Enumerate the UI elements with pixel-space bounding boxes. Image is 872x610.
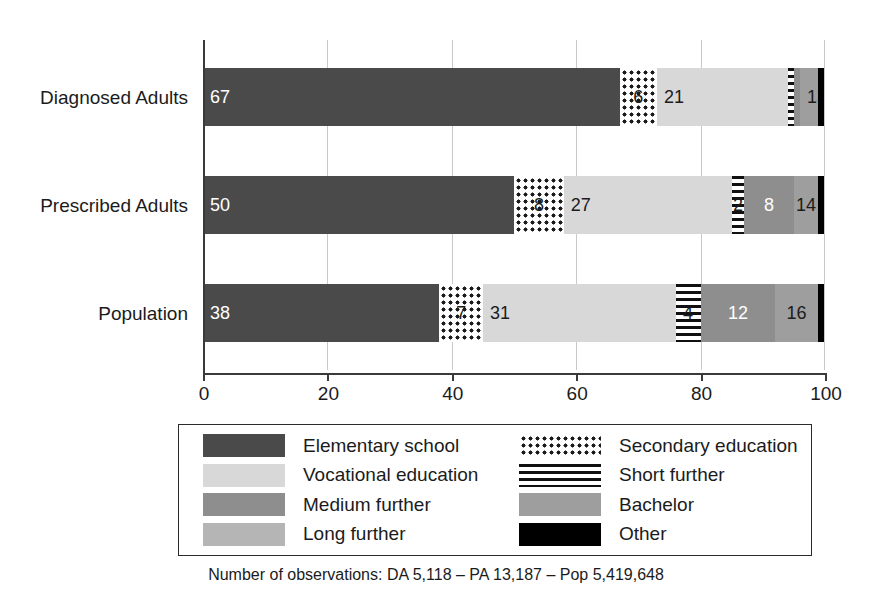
x-tick-80 — [701, 373, 703, 381]
bar-segment-value: 50 — [210, 196, 230, 214]
bar-segment-elementary: 67 — [203, 68, 620, 126]
bar-segment-other — [818, 68, 824, 126]
bar-segment-secondary: 8 — [514, 176, 564, 234]
legend-swatch-bachelor-icon — [519, 493, 601, 516]
legend-item-vocational-education: Vocational education — [179, 461, 495, 491]
x-tick-100 — [825, 373, 827, 381]
legend-label: Other — [619, 523, 667, 545]
chart-container: 67 6 21 13 50 8 27 — [0, 0, 872, 610]
bar-segment-medium-further: 12 — [701, 284, 776, 342]
bar-segment-value: 2 — [733, 196, 743, 214]
bar-segment-elementary: 38 — [203, 284, 439, 342]
bar-segment-bachelor: 16 — [775, 284, 818, 342]
chart-caption: Number of observations: DA 5,118 – PA 13… — [0, 566, 872, 584]
legend-swatch-short-further-icon — [519, 464, 601, 487]
bar-segment-value: 27 — [571, 196, 591, 214]
legend-swatch-long-further-icon — [203, 523, 285, 546]
legend: Elementary school Secondary education Vo… — [178, 424, 812, 556]
legend-item-elementary-school: Elementary school — [179, 431, 495, 461]
x-tick-label-60: 60 — [567, 383, 588, 405]
x-tick-40 — [452, 373, 454, 381]
bar-segment-value: 13 — [807, 88, 818, 106]
x-tick-60 — [576, 373, 578, 381]
bar-segment-secondary: 6 — [620, 68, 657, 126]
legend-label: Short further — [619, 464, 725, 486]
x-tick-label-0: 0 — [199, 383, 210, 405]
legend-item-bachelor: Bachelor — [495, 490, 811, 520]
legend-label: Bachelor — [619, 494, 694, 516]
bar-segment-value: 21 — [664, 88, 684, 106]
legend-item-secondary-education: Secondary education — [495, 431, 811, 461]
bar-segment-other — [818, 176, 824, 234]
bar-segment-value: 7 — [456, 304, 466, 322]
x-axis-line — [203, 373, 827, 375]
bar-segment-bachelor: 13 — [800, 68, 818, 126]
y-axis-labels: Diagnosed Adults Prescribed Adults Popul… — [0, 40, 196, 370]
bar-segment-other — [818, 284, 824, 342]
bar-segment-vocational: 31 — [483, 284, 676, 342]
bar-segment-short-further: 4 — [676, 284, 701, 342]
bar-segment-vocational: 21 — [657, 68, 788, 126]
x-tick-label-40: 40 — [442, 383, 463, 405]
plot-area: 67 6 21 13 50 8 27 — [203, 40, 825, 370]
bar-segment-secondary: 7 — [439, 284, 483, 342]
bar-segment-value: 31 — [490, 304, 510, 322]
bar-prescribed-adults: 50 8 27 2 8 14 — [203, 176, 825, 234]
bar-segment-value: 8 — [534, 196, 544, 214]
bar-segment-bachelor: 14 — [794, 176, 818, 234]
bar-segment-value: 14 — [796, 196, 816, 214]
bar-diagnosed-adults: 67 6 21 13 — [203, 68, 825, 126]
bar-segment-value: 6 — [633, 88, 643, 106]
y-label-diagnosed-adults: Diagnosed Adults — [40, 88, 188, 107]
legend-label: Secondary education — [619, 435, 798, 457]
legend-item-other: Other — [495, 520, 811, 550]
y-label-population: Population — [98, 304, 188, 323]
x-tick-label-20: 20 — [318, 383, 339, 405]
legend-label: Elementary school — [303, 435, 459, 457]
bar-segment-value: 16 — [787, 304, 807, 322]
x-tick-label-100: 100 — [810, 383, 842, 405]
bar-segment-elementary: 50 — [203, 176, 514, 234]
bar-segment-value: 4 — [683, 304, 693, 322]
legend-swatch-elementary-icon — [203, 434, 285, 457]
legend-item-medium-further: Medium further — [179, 490, 495, 520]
legend-item-long-further: Long further — [179, 520, 495, 550]
bar-population: 38 7 31 4 12 16 — [203, 284, 825, 342]
x-tick-20 — [327, 373, 329, 381]
legend-label: Medium further — [303, 494, 431, 516]
bar-segment-vocational: 27 — [564, 176, 732, 234]
bar-segment-value: 38 — [210, 304, 230, 322]
legend-swatch-vocational-icon — [203, 464, 285, 487]
y-axis-line — [203, 40, 205, 374]
bar-segment-medium-further: 8 — [744, 176, 794, 234]
bar-segment-value: 67 — [210, 88, 230, 106]
x-tick-0 — [203, 373, 205, 381]
x-tick-label-80: 80 — [691, 383, 712, 405]
legend-swatch-other-icon — [519, 523, 601, 546]
legend-label: Long further — [303, 523, 405, 545]
legend-item-short-further: Short further — [495, 461, 811, 491]
y-label-prescribed-adults: Prescribed Adults — [40, 196, 188, 215]
legend-label: Vocational education — [303, 464, 478, 486]
legend-swatch-medium-further-icon — [203, 493, 285, 516]
bar-segment-short-further: 2 — [732, 176, 744, 234]
bar-segment-value: 12 — [728, 304, 748, 322]
bar-segment-value: 8 — [764, 196, 774, 214]
legend-swatch-secondary-icon — [519, 434, 601, 457]
